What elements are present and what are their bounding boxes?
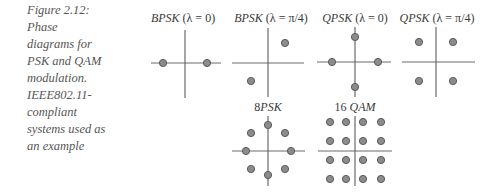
constellation-point (326, 175, 333, 182)
constellation-point (281, 165, 288, 172)
constellation-point (415, 77, 422, 84)
constellation-point (247, 129, 254, 136)
constellation-point (377, 137, 384, 144)
constellation-point (326, 118, 333, 125)
constellation-point (449, 38, 456, 45)
diagram-title: 8PSK (254, 100, 282, 114)
constellation-point (359, 175, 366, 182)
constellation-point (359, 118, 366, 125)
constellation-point (326, 137, 333, 144)
constellation-point (342, 156, 349, 163)
constellation-point (203, 59, 210, 66)
constellation-point (415, 38, 422, 45)
constellation-point (377, 156, 384, 163)
constellation-point (287, 147, 294, 154)
constellation-point (328, 58, 335, 65)
diagram-title: 16 QAM (335, 100, 377, 114)
constellation-point (377, 175, 384, 182)
constellation-point (351, 33, 358, 40)
constellation-point (359, 137, 366, 144)
constellation-point (281, 39, 288, 46)
constellation-point (247, 77, 254, 84)
phase-diagrams: BPSK (λ = 0) BPSK (λ = π/4) QPSK (λ = 0)… (0, 0, 499, 193)
constellation-point (342, 118, 349, 125)
constellation-point (264, 121, 271, 128)
constellation-point (281, 129, 288, 136)
constellation-point (342, 137, 349, 144)
diagram-title: QPSK (λ = π/4) (400, 11, 475, 25)
diagram-title: BPSK (λ = 0) (151, 11, 215, 25)
constellation-point (342, 175, 349, 182)
constellation-point (449, 77, 456, 84)
constellation-point (159, 59, 166, 66)
constellation-point (247, 165, 254, 172)
constellation-point (359, 156, 366, 163)
constellation-point (264, 171, 271, 178)
diagram-title: BPSK (λ = π/4) (234, 11, 308, 25)
constellation-point (326, 156, 333, 163)
constellation-point (351, 83, 358, 90)
diagram-bpsk-pi4: BPSK (λ = π/4) (232, 11, 308, 97)
diagram-16qam: 16 QAM (318, 100, 392, 186)
constellation-point (242, 147, 249, 154)
diagram-bpsk-0: BPSK (λ = 0) (151, 11, 221, 98)
diagram-8psk: 8PSK (232, 100, 305, 186)
diagram-qpsk-pi4: QPSK (λ = π/4) (400, 11, 475, 97)
diagram-title: QPSK (λ = 0) (322, 11, 388, 25)
constellation-point (377, 118, 384, 125)
diagram-qpsk-0: QPSK (λ = 0) (317, 11, 391, 97)
constellation-point (374, 58, 381, 65)
